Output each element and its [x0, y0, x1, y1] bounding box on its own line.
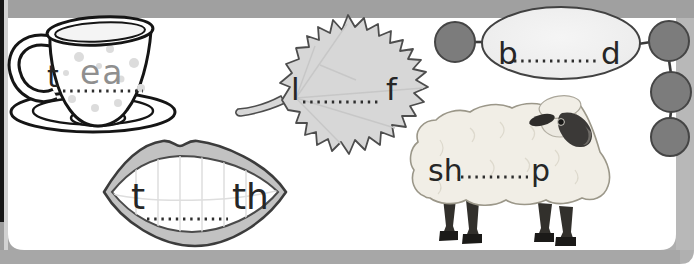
bead-small-right-1: [649, 21, 689, 61]
suffix-letter: p: [531, 153, 550, 188]
prefix-letter: t: [47, 59, 59, 94]
bead-small-right-3: [651, 118, 689, 156]
worksheet-page: t ea l f b d: [0, 0, 696, 266]
scan-spine-edge: [0, 0, 4, 222]
sheep-eye: [558, 119, 565, 126]
bead-small-right-2: [651, 72, 691, 112]
prefix-letter: b: [498, 35, 518, 71]
answer-written: ea: [80, 53, 125, 92]
suffix-letter: f: [386, 71, 398, 107]
frame-bottom-band: [0, 250, 680, 264]
suffix-letter: d: [601, 35, 621, 71]
prefix-letter: t: [131, 176, 145, 217]
prefix-letter: l: [291, 71, 300, 107]
page-edge-sliver: [4, 0, 8, 250]
bead-small-left: [435, 22, 475, 62]
suffix-letter: th: [232, 176, 269, 217]
prefix-letter: sh: [428, 153, 463, 188]
